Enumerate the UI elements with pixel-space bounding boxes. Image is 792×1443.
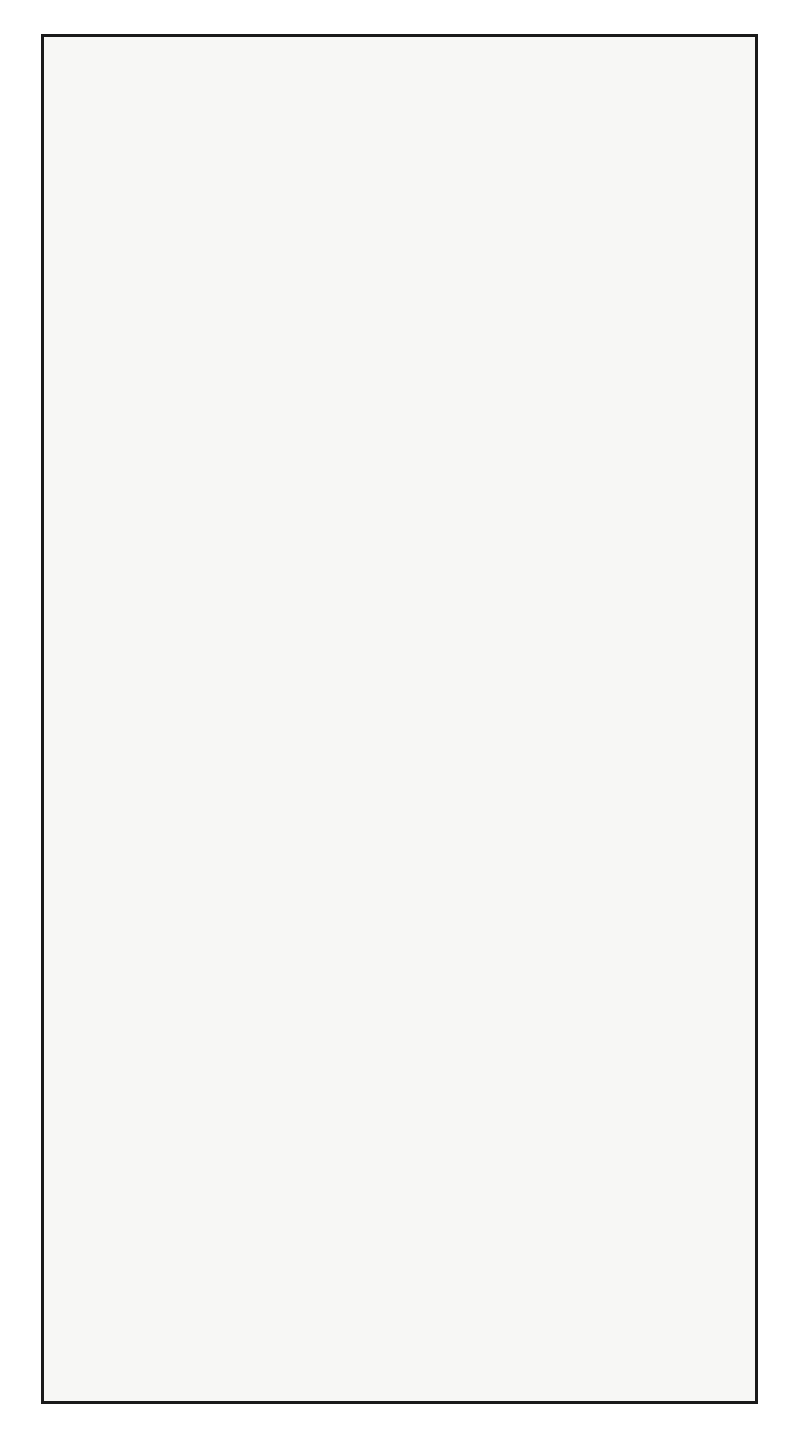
world-map-svg: [44, 37, 761, 1407]
map-rotation-wrapper: [44, 37, 761, 1407]
map-frame: [41, 34, 758, 1404]
world-map: [44, 37, 761, 1407]
figure-page: [0, 0, 792, 1443]
